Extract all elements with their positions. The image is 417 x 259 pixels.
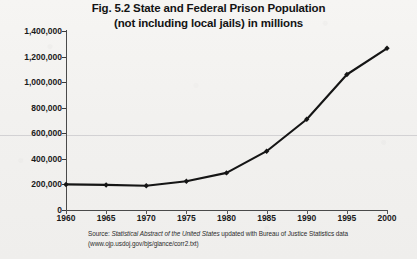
line-chart-plot: 0200,000400,000600,000800,0001,000,0001,…	[0, 0, 417, 259]
prison-population-series	[0, 0, 417, 259]
data-point-marker	[63, 182, 68, 187]
data-point-marker	[103, 182, 108, 187]
source-prefix: Source:	[88, 230, 110, 237]
source-note: Source: Statistical Abstract of the Unit…	[88, 230, 398, 247]
series-line	[66, 48, 387, 185]
figure-page: Fig. 5.2 State and Federal Prison Popula…	[0, 0, 417, 259]
data-point-marker	[144, 183, 149, 188]
source-line-1: Source: Statistical Abstract of the Unit…	[88, 230, 398, 237]
source-publication: Statistical Abstract of the United State…	[111, 230, 219, 237]
source-rest: updated with Bureau of Justice Statistic…	[221, 230, 348, 237]
source-url: (www.ojp.usdoj.gov/bjs/glance/corr2.txt)	[88, 240, 398, 247]
data-point-marker	[184, 179, 189, 184]
